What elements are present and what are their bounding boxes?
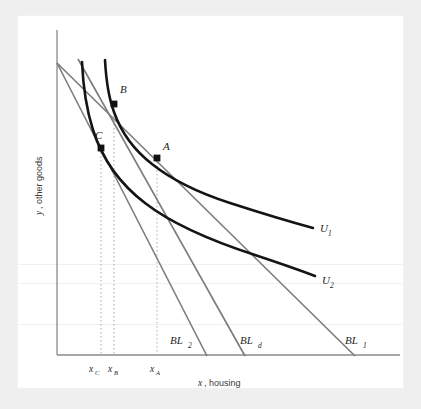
x-tick-xb-var: x xyxy=(107,364,113,374)
x-tick-xb-subscript: B xyxy=(114,369,118,376)
budget-line-bl2[interactable] xyxy=(57,63,207,356)
point-label-b: B xyxy=(120,83,127,95)
x-tick-xa-subscript: A xyxy=(155,369,160,376)
budget-label-bl1: BL 1 xyxy=(345,334,367,350)
budget-label-bld-subscript: d xyxy=(258,341,262,350)
point-marker-b[interactable] xyxy=(111,101,118,108)
indifference-curve-u2[interactable] xyxy=(82,62,315,276)
curve-label-u1-subscript: 1 xyxy=(328,229,332,238)
budget-label-bl2-text: BL xyxy=(170,334,183,346)
x-tick-xa-var: x xyxy=(149,364,155,374)
budget-line-bl1[interactable] xyxy=(57,63,355,356)
curve-label-u1: U 1 xyxy=(320,222,332,238)
x-axis-title: x , housing xyxy=(197,378,241,388)
point-label-c: C xyxy=(95,129,103,141)
curve-label-u2-subscript: 2 xyxy=(330,281,334,290)
budget-label-bld: BL d xyxy=(240,334,262,350)
x-tick-xc-var: x xyxy=(88,364,94,374)
curve-label-u2: U 2 xyxy=(322,274,334,290)
y-axis-title-var: y xyxy=(34,210,44,216)
x-tick-label-group: x C x B x A xyxy=(88,364,160,376)
x-tick-label-xc: x C xyxy=(88,364,100,376)
point-label-group: A B C xyxy=(95,83,170,152)
budget-label-bl1-text: BL xyxy=(345,334,358,346)
x-tick-label-xb: x B xyxy=(107,364,118,376)
indifference-curve-u1[interactable] xyxy=(105,60,313,228)
x-axis-title-text: , housing xyxy=(204,378,241,388)
axis-group xyxy=(57,30,400,355)
x-tick-xc-subscript: C xyxy=(95,369,100,376)
y-axis-title-text: , other goods xyxy=(34,156,44,209)
figure-root: A B C U 1 U 2 BL 2 BL d xyxy=(0,0,421,409)
budget-label-bl2: BL 2 xyxy=(170,334,192,350)
x-tick-label-xa: x A xyxy=(149,364,160,376)
budget-label-bl2-subscript: 2 xyxy=(188,341,192,350)
budget-label-bl1-subscript: 1 xyxy=(363,341,367,350)
indifference-curve-chart: A B C U 1 U 2 BL 2 BL d xyxy=(0,0,421,409)
budget-label-bld-text: BL xyxy=(240,334,253,346)
point-marker-a[interactable] xyxy=(154,155,161,162)
point-label-a: A xyxy=(162,140,170,152)
budget-line-group xyxy=(57,59,355,356)
point-marker-c[interactable] xyxy=(98,145,105,152)
y-axis-title: y , other goods xyxy=(34,156,44,216)
indifference-curve-group xyxy=(82,60,315,276)
budget-line-bld[interactable] xyxy=(78,59,245,356)
curve-label-group: U 1 U 2 xyxy=(320,222,334,290)
x-axis-title-var: x xyxy=(197,378,203,388)
axis-title-group: x , housing y , other goods xyxy=(34,156,241,388)
